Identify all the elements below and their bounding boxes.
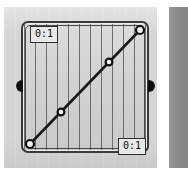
left-resize-handle[interactable]	[16, 80, 23, 92]
curve-ramp-line	[30, 30, 140, 144]
control-point-mid-low[interactable]	[58, 109, 65, 116]
control-point-mid-high[interactable]	[106, 59, 113, 66]
range-label-top-left[interactable]: 0:1	[30, 26, 58, 43]
range-label-bottom-right[interactable]: 0:1	[118, 138, 146, 155]
side-strip-panel	[169, 7, 188, 168]
control-point-start[interactable]	[26, 140, 34, 148]
control-point-end[interactable]	[136, 26, 144, 34]
right-gutter	[157, 0, 169, 175]
screenshot-root: 0:1 0:1	[0, 0, 188, 175]
